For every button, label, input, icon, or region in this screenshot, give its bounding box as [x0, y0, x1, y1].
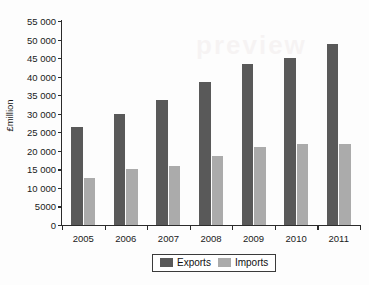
y-tick-label: 50 000	[27, 34, 56, 45]
legend-swatch-icon	[160, 258, 173, 267]
x-tick-mark	[62, 225, 63, 230]
bar-exports-2010	[284, 58, 296, 225]
x-tick-label: 2005	[73, 233, 94, 244]
y-tick-mark	[58, 40, 62, 41]
x-tick-mark	[360, 225, 361, 230]
bar-imports-2011	[339, 144, 351, 225]
y-tick-mark	[58, 132, 62, 133]
y-tick-mark	[58, 21, 62, 22]
x-tick-label: 2010	[286, 233, 307, 244]
bar-imports-2005	[84, 178, 96, 225]
y-tick-label: 45 000	[27, 53, 56, 64]
y-tick-label: 10 000	[27, 182, 56, 193]
y-axis-title-label: £million	[4, 99, 15, 131]
y-tick-label: 0	[51, 220, 56, 231]
chart-legend: ExportsImports	[152, 254, 276, 272]
y-tick-mark	[58, 77, 62, 78]
legend-label: Exports	[177, 257, 211, 268]
y-tick-label: 25 000	[27, 127, 56, 138]
y-tick-mark	[58, 206, 62, 207]
x-tick-label: 2007	[158, 233, 179, 244]
legend-entry-imports: Imports	[218, 257, 268, 268]
x-tick-mark	[232, 225, 233, 230]
legend-swatch-icon	[218, 258, 231, 267]
y-tick-mark	[58, 114, 62, 115]
y-tick-mark	[58, 188, 62, 189]
legend-entry-exports: Exports	[160, 257, 211, 268]
bar-imports-2007	[169, 166, 181, 225]
legend-label: Imports	[235, 257, 268, 268]
bar-imports-2008	[212, 156, 224, 225]
x-tick-mark	[275, 225, 276, 230]
x-tick-label: 2009	[243, 233, 264, 244]
y-tick-mark	[58, 169, 62, 170]
bar-exports-2008	[199, 82, 211, 225]
bar-chart-figure: preview £million 0500010 00015 00020 000…	[0, 0, 369, 285]
bar-exports-2011	[327, 44, 339, 225]
bar-exports-2009	[242, 64, 254, 225]
bar-imports-2010	[297, 144, 309, 225]
y-tick-label: 40 000	[27, 71, 56, 82]
x-tick-label: 2006	[115, 233, 136, 244]
bar-exports-2007	[156, 100, 168, 225]
y-tick-label: 20 000	[27, 145, 56, 156]
y-tick-label: 30 000	[27, 108, 56, 119]
bar-exports-2006	[114, 114, 126, 225]
y-tick-label: 15 000	[27, 164, 56, 175]
y-tick-label: 5000	[35, 201, 56, 212]
bar-exports-2005	[71, 127, 83, 225]
y-tick-mark	[58, 151, 62, 152]
y-axis-title: £million	[0, 0, 18, 230]
bar-imports-2009	[254, 147, 266, 225]
y-tick-label: 35 000	[27, 90, 56, 101]
x-tick-mark	[147, 225, 148, 230]
y-tick-mark	[58, 95, 62, 96]
x-tick-label: 2008	[200, 233, 221, 244]
y-tick-label: 55 000	[27, 16, 56, 27]
x-tick-label: 2011	[328, 233, 348, 244]
plot-area: 0500010 00015 00020 00025 00030 00035 00…	[62, 21, 360, 225]
x-tick-mark	[190, 225, 191, 230]
y-tick-mark	[58, 58, 62, 59]
x-tick-mark	[105, 225, 106, 230]
bar-imports-2006	[126, 169, 138, 225]
x-tick-mark	[317, 225, 318, 230]
